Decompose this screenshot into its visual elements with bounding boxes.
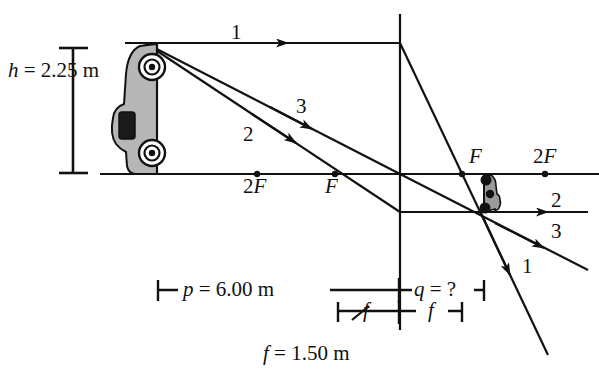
focal-point-F-left-label: F xyxy=(325,176,338,197)
image-car xyxy=(480,175,500,213)
ray-1-refracted-arrowhead xyxy=(480,211,510,275)
ray-3-label-right: 3 xyxy=(551,221,562,242)
focal-length-left-label: f xyxy=(363,300,369,321)
focal-length-right-label: f xyxy=(428,300,434,321)
object-distance-label: p = 6.00 m xyxy=(183,279,274,300)
focal-length-value-label: f = 1.50 m xyxy=(263,343,350,364)
focal-point-F-right-dot xyxy=(459,171,465,177)
focal-point-F-right-label: F xyxy=(469,146,482,167)
focal-point-2F-left-label: 2F xyxy=(243,176,266,197)
ray-2-label-right: 2 xyxy=(551,190,562,211)
ray-1-label-left: 1 xyxy=(231,22,242,43)
ray-3-label-left: 3 xyxy=(296,96,307,117)
ray-1-label-right: 1 xyxy=(522,256,533,277)
image-distance-label: q = ? xyxy=(414,279,456,300)
ray-2-transmitted-arrowhead xyxy=(495,223,544,248)
focal-point-2F-right-dot xyxy=(542,171,548,177)
ray-2-label-left: 2 xyxy=(243,124,254,145)
object-car xyxy=(112,44,165,174)
focal-length-left-dimension xyxy=(338,300,400,324)
focal-point-2F-right-label: 2F xyxy=(533,146,556,167)
object-height-label: h = 2.25 m xyxy=(8,60,99,81)
